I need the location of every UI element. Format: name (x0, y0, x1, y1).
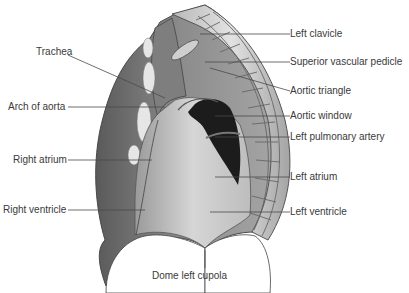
label-superior-vascular-pedicle: Superior vascular pedicle (290, 56, 402, 68)
label-aortic-window: Aortic window (290, 110, 352, 122)
label-trachea: Trachea (36, 46, 72, 58)
label-left-pulmonary-artery: Left pulmonary artery (290, 131, 385, 143)
label-right-atrium: Right atrium (13, 154, 67, 166)
label-left-ventricle: Left ventricle (290, 206, 347, 218)
label-right-ventricle: Right ventricle (3, 204, 66, 216)
chest-anatomy-diagram (0, 0, 409, 293)
left-diaphragm-dome (205, 235, 270, 293)
label-left-atrium: Left atrium (290, 171, 337, 183)
label-arch-of-aorta: Arch of aorta (8, 101, 65, 113)
label-dome-left-cupola: Dome left cupola (152, 270, 227, 282)
label-aortic-triangle: Aortic triangle (290, 85, 351, 97)
label-left-clavicle: Left clavicle (290, 28, 342, 40)
